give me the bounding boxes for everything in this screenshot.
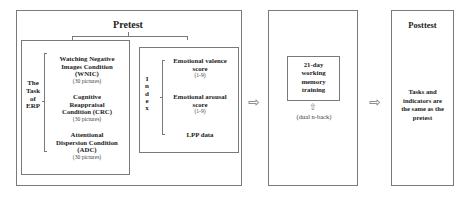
index-label: I n d e x [142,76,152,113]
pretest-bracket-center-tick [128,32,129,36]
posttest-title: Posttest [391,21,454,31]
right-arrow-icon: ⇨ [365,95,385,111]
conditions-bracket [44,53,45,152]
condition-crc: Cognitive Reappraisal Condition (CRC) (3… [48,93,126,122]
training-label: 21-day working memory training [287,61,340,94]
pretest-bracket-right-tick [187,36,188,40]
index-lpp-data: LPP data [164,131,236,139]
condition-wnic: Watching Negative Images Condition (WNIC… [48,55,126,84]
conditions-bracket-mid [42,101,44,102]
pretest-title: Pretest [96,19,160,30]
index-bracket [162,60,163,135]
posttest-description: Tasks and indicators are the same as the… [393,88,452,122]
task-of-erp-label: The Task of ERP [22,80,44,111]
conditions-bracket-top [44,53,47,54]
right-arrow-icon: ⇨ [244,95,264,111]
training-method: (dual n-back) [285,113,343,120]
up-arrow-icon: ⇧ [303,102,323,112]
index-emotional-valence: Emotional valence score (1-9) [164,57,236,78]
index-emotional-arousal: Emotional arousal score (1-9) [164,93,236,114]
pretest-bracket-horizontal [72,36,187,37]
condition-adc: Attentional Dispersion Condition (ADC) (… [46,131,128,160]
index-bracket-mid [160,97,162,98]
